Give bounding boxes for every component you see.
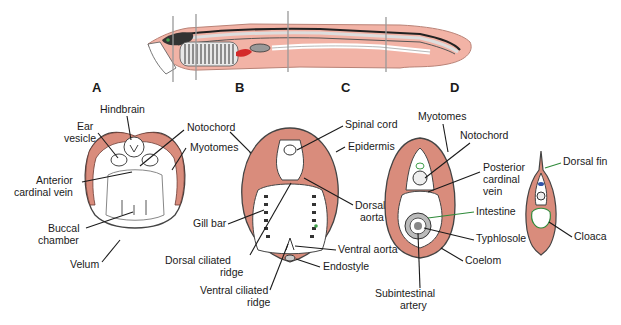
diagram-canvas: A B C D Hindbrain Ear vesicle Spinal cor… bbox=[0, 0, 621, 325]
label-hindbrain: Hindbrain bbox=[100, 103, 145, 115]
label-notochord-shared: Notochord bbox=[187, 121, 236, 133]
label-endostyle: Endostyle bbox=[323, 260, 369, 272]
label-coelom: Coelom bbox=[465, 254, 501, 266]
label-ventral-ciliated-2: ridge bbox=[247, 296, 271, 308]
label-posterior-cardinal-2: cardinal bbox=[483, 173, 520, 185]
label-buccal-2: chamber bbox=[38, 234, 79, 246]
label-dorsal-ciliated-1: Dorsal ciliated bbox=[165, 254, 231, 266]
label-anterior-cardinal-1: Anterior bbox=[36, 174, 73, 186]
label-myotomes-a: Myotomes bbox=[190, 141, 238, 153]
label-ear-vesicle-1: Ear bbox=[77, 120, 94, 132]
label-typhlosole: Typhlosole bbox=[476, 232, 526, 244]
label-ventral-aorta: Ventral aorta bbox=[338, 243, 398, 255]
label-dorsal-fin: Dorsal fin bbox=[563, 155, 608, 167]
section-letter-b: B bbox=[235, 80, 244, 95]
label-anterior-cardinal-2: cardinal vein bbox=[14, 186, 73, 198]
section-letter-a: A bbox=[92, 80, 102, 95]
cross-section-a bbox=[85, 132, 185, 228]
label-spinal-cord: Spinal cord bbox=[345, 118, 398, 130]
label-velum: Velum bbox=[70, 258, 99, 270]
label-ear-vesicle-2: vesicle bbox=[64, 132, 96, 144]
label-posterior-cardinal-1: Posterior bbox=[483, 161, 526, 173]
label-notochord-c: Notochord bbox=[460, 129, 509, 141]
cross-section-c bbox=[385, 138, 455, 258]
label-cloaca: Cloaca bbox=[574, 230, 607, 242]
label-ventral-ciliated-1: Ventral ciliated bbox=[200, 284, 268, 296]
label-gill-bar: Gill bar bbox=[193, 217, 227, 229]
section-letter-d: D bbox=[450, 80, 459, 95]
larva-side-view bbox=[148, 11, 471, 82]
label-epidermis: Epidermis bbox=[348, 140, 395, 152]
label-posterior-cardinal-3: vein bbox=[483, 185, 502, 197]
cross-section-d bbox=[526, 151, 556, 255]
label-dorsal-ciliated-2: ridge bbox=[220, 266, 244, 278]
label-myotomes-c: Myotomes bbox=[418, 110, 466, 122]
label-subintestinal-1: Subintestinal bbox=[375, 287, 435, 299]
label-buccal-1: Buccal bbox=[48, 222, 80, 234]
label-dorsal-aorta-1: Dorsal bbox=[355, 199, 385, 211]
label-dorsal-aorta-2: aorta bbox=[360, 211, 384, 223]
section-letter-c: C bbox=[341, 80, 351, 95]
cross-section-b bbox=[242, 128, 338, 262]
label-subintestinal-2: artery bbox=[400, 299, 428, 311]
label-intestine: Intestine bbox=[476, 205, 516, 217]
